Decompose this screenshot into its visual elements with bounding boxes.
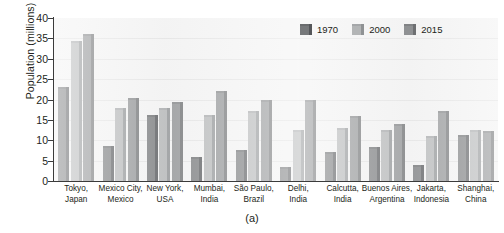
bar-group [54,18,98,181]
bar [147,115,158,181]
bar [191,157,202,181]
bar [394,124,405,181]
bar [470,130,481,181]
y-tick: 20 [0,100,48,101]
bar [204,115,215,181]
chart-legend: 197020002015 [300,24,442,35]
legend-swatch-icon [404,24,416,35]
bar [280,167,291,181]
bar-group [276,18,320,181]
bar-group [320,18,364,181]
figure-caption: (a) [0,212,504,224]
bar-group [232,18,276,181]
figure-panel-a: Population (millions) 4035302520151050 1… [0,0,504,233]
bar [337,128,348,181]
bar [293,130,304,181]
bar-group [187,18,231,181]
y-tick-label: 5 [4,155,48,167]
legend-item-2015: 2015 [404,24,442,35]
bar [128,98,139,181]
y-tick-label: 25 [4,73,48,85]
bar [483,131,494,181]
legend-label: 2015 [421,24,442,35]
y-tick: 30 [0,59,48,60]
bar [248,111,259,181]
y-tick-label: 15 [4,114,48,126]
bar [305,100,316,182]
bar [236,150,247,181]
bar [71,41,82,181]
legend-swatch-icon [352,24,364,35]
bar-group [409,18,453,181]
bar [261,100,272,182]
bar [458,135,469,181]
x-axis-label: Shanghai,China [446,184,504,205]
bar [216,91,227,181]
bar [172,102,183,181]
bar [159,108,170,181]
legend-label: 2000 [369,24,390,35]
bar [413,165,424,181]
y-tick: 25 [0,79,48,80]
bar [103,146,114,181]
legend-swatch-icon [300,24,312,35]
y-tick-label: 20 [4,94,48,106]
bar [369,147,380,181]
bar [115,108,126,181]
x-axis-line [53,181,499,182]
y-tick: 40 [0,18,48,19]
y-tick: 10 [0,140,48,141]
bar [58,87,69,181]
y-tick-label: 0 [4,175,48,187]
legend-label: 1970 [317,24,338,35]
y-tick-label: 10 [4,134,48,146]
bar [381,130,392,181]
legend-item-1970: 1970 [300,24,338,35]
bar [426,136,437,181]
legend-item-2000: 2000 [352,24,390,35]
bar [325,152,336,181]
y-tick: 0 [0,181,48,182]
bar-group [365,18,409,181]
y-tick-label: 40 [4,12,48,24]
plot-area [54,18,498,181]
y-tick: 5 [0,161,48,162]
y-tick-label: 30 [4,53,48,65]
bar-group [454,18,498,181]
y-tick: 35 [0,38,48,39]
bar-group [143,18,187,181]
bar [350,116,361,181]
bar [83,34,94,182]
y-tick: 15 [0,120,48,121]
bar [438,111,449,181]
y-tick-label: 35 [4,32,48,44]
bar-group [98,18,142,181]
